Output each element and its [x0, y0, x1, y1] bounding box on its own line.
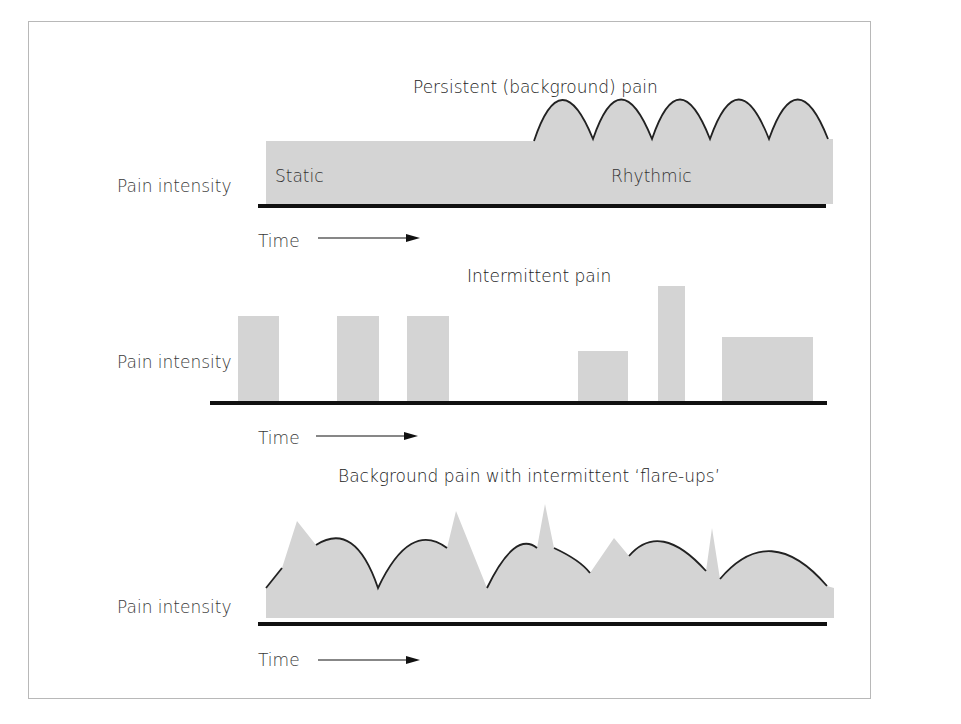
panel-2-graph	[210, 286, 827, 440]
panel-3-x-label: Time	[258, 650, 300, 670]
flare-up-area	[266, 504, 834, 618]
pain-episode-bar	[722, 337, 813, 404]
panel-2-y-label: Pain intensity	[117, 352, 232, 372]
panel-3-graph	[258, 504, 834, 664]
pain-episode-bar	[578, 351, 628, 404]
pain-episode-bar	[238, 316, 279, 404]
panel-2-title: Intermittent pain	[467, 266, 611, 286]
panel-2-arrowhead-icon	[404, 432, 418, 440]
pain-episode-bar	[407, 316, 449, 404]
panel-1-graph	[258, 100, 833, 243]
segment-label-static: Static	[275, 166, 324, 186]
pain-episode-bar	[658, 286, 685, 404]
persistent-pain-area	[266, 100, 833, 205]
pain-episode-bar	[337, 316, 379, 404]
segment-label-rhythmic: Rhythmic	[611, 166, 692, 186]
panel-1-arrowhead-icon	[406, 234, 420, 242]
panel-3-arrowhead-icon	[406, 656, 420, 664]
panel-2-x-label: Time	[258, 428, 300, 448]
panel-3-title: Background pain with intermittent ‘flare…	[338, 466, 720, 486]
panel-3-y-label: Pain intensity	[117, 597, 232, 617]
